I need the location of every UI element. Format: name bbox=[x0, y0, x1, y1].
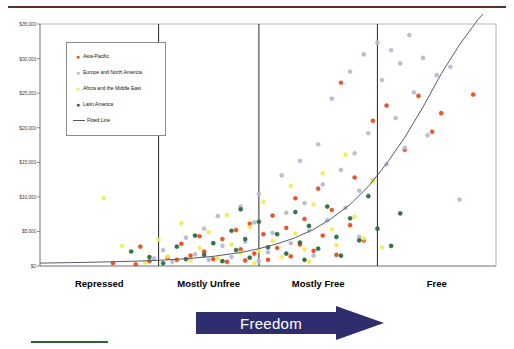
scatter-point bbox=[184, 236, 188, 240]
scatter-point bbox=[166, 254, 170, 258]
scatter-point bbox=[270, 213, 274, 217]
scatter-point bbox=[330, 227, 334, 231]
scatter-point bbox=[202, 253, 206, 257]
scatter-point bbox=[457, 198, 461, 202]
scatter-point bbox=[439, 111, 443, 115]
scatter-point bbox=[261, 200, 265, 204]
x-axis-category-label: Mostly Free bbox=[258, 278, 378, 289]
scatter-point bbox=[302, 258, 306, 262]
banner-label: Freedom bbox=[196, 306, 346, 340]
legend-item-africa-middle-east[interactable]: ● Africa and the Middle East bbox=[73, 80, 165, 96]
scatter-point bbox=[339, 81, 343, 85]
scatter-point bbox=[179, 242, 183, 246]
scatter-point bbox=[298, 240, 302, 244]
dot-marker-icon: ● bbox=[73, 53, 83, 60]
scatter-point bbox=[407, 33, 411, 37]
scatter-point bbox=[430, 130, 434, 134]
scatter-point bbox=[362, 236, 366, 240]
scatter-point bbox=[147, 255, 151, 259]
scatter-point bbox=[225, 213, 229, 217]
scatter-point bbox=[188, 258, 192, 262]
scatter-point bbox=[243, 258, 247, 262]
scatter-point bbox=[293, 210, 297, 214]
scatter-point bbox=[357, 238, 361, 242]
scatter-point bbox=[252, 220, 256, 224]
scatter-point bbox=[198, 234, 202, 238]
scatter-point bbox=[389, 48, 393, 52]
scatter-point bbox=[334, 253, 338, 257]
scatter-point bbox=[289, 241, 293, 245]
scatter-point bbox=[193, 233, 197, 237]
scatter-point bbox=[270, 231, 274, 235]
legend-label: Africa and the Middle East bbox=[83, 85, 141, 91]
scatter-point bbox=[334, 243, 338, 247]
scatter-point bbox=[380, 78, 384, 82]
scatter-point bbox=[257, 259, 261, 263]
legend-item-latin-america[interactable]: ● Latin America bbox=[73, 96, 165, 112]
dot-marker-icon: ● bbox=[73, 101, 83, 108]
scatter-point bbox=[216, 214, 220, 218]
legend-label: Asia-Pacific bbox=[83, 53, 109, 59]
scatter-point bbox=[252, 251, 256, 255]
chart-page: $0$5,000$10,000$15,000$20,000$25,000$30,… bbox=[0, 0, 514, 349]
chart-legend: ● Asia-Pacific ● Europe and North Americ… bbox=[66, 42, 166, 136]
scatter-point bbox=[161, 261, 165, 265]
scatter-point bbox=[239, 207, 243, 211]
legend-item-fitted-line[interactable]: Fitted Line bbox=[73, 112, 165, 128]
scatter-point bbox=[302, 247, 306, 251]
y-axis-tick-label: $35,000 bbox=[4, 21, 36, 27]
scatter-point bbox=[229, 255, 233, 259]
scatter-point bbox=[384, 103, 388, 107]
scatter-point bbox=[302, 201, 306, 205]
scatter-point bbox=[234, 228, 238, 232]
scatter-point bbox=[362, 52, 366, 56]
x-axis-category-label: Mostly Unfree bbox=[149, 278, 269, 289]
scatter-point bbox=[207, 258, 211, 262]
scatter-point bbox=[161, 248, 165, 252]
legend-item-europe-north-america[interactable]: ● Europe and North America bbox=[73, 64, 165, 80]
scatter-point bbox=[220, 244, 224, 248]
scatter-point bbox=[435, 73, 439, 77]
dot-marker-icon: ● bbox=[73, 69, 83, 76]
scatter-point bbox=[289, 184, 293, 188]
scatter-point bbox=[312, 202, 316, 206]
y-axis-tick-label: $25,000 bbox=[4, 90, 36, 96]
y-axis-tick-label: $0 bbox=[4, 263, 36, 269]
scatter-point bbox=[375, 41, 379, 45]
scatter-point bbox=[275, 232, 279, 236]
scatter-point bbox=[321, 233, 325, 237]
legend-item-asia-pacific[interactable]: ● Asia-Pacific bbox=[73, 48, 165, 64]
scatter-point bbox=[280, 173, 284, 177]
x-axis-category-label: Free bbox=[377, 278, 497, 289]
scatter-point bbox=[339, 168, 343, 172]
x-axis-category-label: Repressed bbox=[39, 278, 159, 289]
scatter-chart: $0$5,000$10,000$15,000$20,000$25,000$30,… bbox=[0, 14, 514, 276]
scatter-point bbox=[211, 241, 215, 245]
scatter-point bbox=[120, 244, 124, 248]
scatter-point bbox=[270, 239, 274, 243]
scatter-point bbox=[170, 260, 174, 264]
scatter-point bbox=[366, 131, 370, 135]
scatter-point bbox=[339, 254, 343, 258]
scatter-point bbox=[353, 215, 357, 219]
legend-label: Latin America bbox=[83, 101, 113, 107]
scatter-point bbox=[353, 151, 357, 155]
legend-label: Europe and North America bbox=[83, 69, 142, 75]
scatter-point bbox=[375, 227, 379, 231]
line-swatch-icon bbox=[73, 120, 85, 121]
scatter-point bbox=[129, 249, 133, 253]
y-axis-tick-label: $30,000 bbox=[4, 56, 36, 62]
scatter-point bbox=[202, 227, 206, 231]
scatter-point bbox=[421, 56, 425, 60]
scatter-point bbox=[152, 256, 156, 260]
scatter-point bbox=[403, 146, 407, 150]
scatter-point bbox=[325, 204, 329, 208]
scatter-point bbox=[312, 249, 316, 253]
bottom-divider-rule bbox=[31, 341, 108, 343]
y-axis-tick-label: $5,000 bbox=[4, 228, 36, 234]
scatter-point bbox=[398, 61, 402, 65]
scatter-point bbox=[380, 245, 384, 249]
scatter-point bbox=[248, 256, 252, 260]
scatter-point bbox=[266, 250, 270, 254]
scatter-point bbox=[321, 171, 325, 175]
